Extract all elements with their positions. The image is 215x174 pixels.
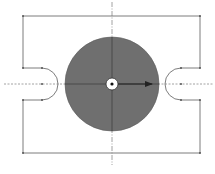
center-hole-dot (110, 82, 113, 85)
diagram-canvas (0, 0, 215, 174)
